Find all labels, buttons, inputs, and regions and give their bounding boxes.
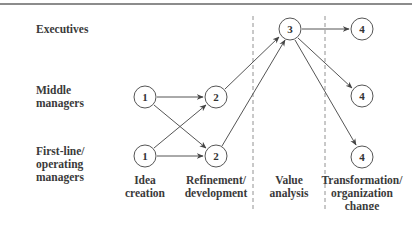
node-4-middle-label: 4	[359, 90, 365, 102]
column-label-transformation-line2: organization	[307, 187, 412, 200]
column-label-transformation-line1: Transformation/	[307, 174, 412, 187]
row-label-firstline-line3: managers	[36, 171, 85, 184]
node-2-middle-label: 2	[213, 91, 219, 103]
row-label-middle-line2: managers	[36, 97, 84, 110]
node-1-firstline-label: 1	[142, 150, 148, 162]
node-3-executives-label: 3	[287, 23, 293, 35]
row-label-executives-text: Executives	[36, 23, 88, 36]
node-1-middle-label: 1	[142, 91, 148, 103]
column-label-transformation-change: Transformation/ organization change	[307, 174, 412, 210]
node-4-executives-label: 4	[359, 23, 365, 35]
node-4-firstline-label: 4	[359, 151, 365, 163]
node-2-firstline-label: 2	[213, 150, 219, 162]
edge-2low-3	[222, 40, 285, 146]
edge-3-4low	[295, 40, 356, 145]
column-label-transformation-line3: change	[307, 200, 412, 210]
row-label-middle-line1: Middle	[36, 84, 84, 97]
row-label-middle-managers: Middle managers	[36, 84, 84, 110]
row-label-executives: Executives	[36, 23, 88, 36]
row-label-firstline-managers: First-line/ operating managers	[36, 145, 85, 184]
row-label-firstline-line2: operating	[36, 158, 85, 171]
row-label-firstline-line1: First-line/	[36, 145, 85, 158]
